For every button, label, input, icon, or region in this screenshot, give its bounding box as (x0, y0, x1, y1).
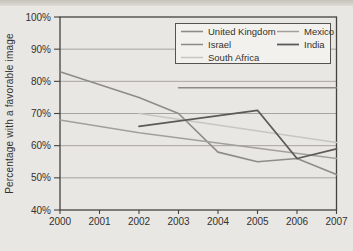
y-tick-label: 60% (31, 140, 51, 151)
series-line-south-africa (139, 114, 337, 143)
x-tick-label: 2007 (325, 216, 348, 227)
y-tick-label: 50% (31, 172, 51, 183)
series-line-mexico (60, 120, 337, 159)
x-tick-label: 2005 (246, 216, 269, 227)
y-tick-label: 80% (31, 76, 51, 87)
legend-label-south-africa: South Africa (208, 52, 260, 63)
y-tick-label: 70% (31, 108, 51, 119)
y-tick-label: 100% (25, 12, 51, 23)
legend-label-india: India (304, 39, 325, 50)
legend-label-mexico: Mexico (304, 26, 334, 37)
legend-label-israel: Israel (208, 39, 231, 50)
favorability-line-chart: 100%90%80%70%60%50%40%200020012002200320… (0, 0, 353, 251)
chart-canvas: 100%90%80%70%60%50%40%200020012002200320… (0, 0, 353, 251)
y-axis-title: Percentage with a favorable image (4, 33, 15, 194)
y-tick-label: 40% (31, 205, 51, 216)
x-tick-label: 2001 (88, 216, 111, 227)
x-tick-label: 2006 (286, 216, 309, 227)
x-tick-label: 2002 (128, 216, 151, 227)
x-tick-label: 2000 (49, 216, 72, 227)
y-tick-label: 90% (31, 44, 51, 55)
x-tick-label: 2003 (167, 216, 190, 227)
legend: United KingdomIsraelSouth AfricaMexicoIn… (176, 24, 335, 64)
series-layer (60, 72, 337, 175)
legend-label-united-kingdom: United Kingdom (208, 26, 276, 37)
x-tick-label: 2004 (207, 216, 230, 227)
